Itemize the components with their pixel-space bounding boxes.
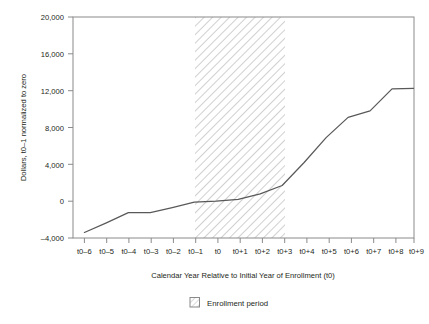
x-tick-label: t0+7 [366,247,381,256]
y-axis-title: Dollars, t0–1 normalized to zero [19,74,28,181]
enrollment-period-band [195,17,285,238]
x-tick-label: t0+1 [233,247,248,256]
x-axis-title: Calendar Year Relative to Initial Year o… [151,271,335,280]
x-tick-label: t0+5 [322,247,337,256]
chart-figure: 20,000 16,000 12,000 8,000 4,000 0 –4,00… [0,0,429,324]
x-tick-label: t0–3 [144,247,159,256]
y-tick-label: 20,000 [41,13,64,22]
y-tick-label: 8,000 [45,124,64,133]
y-axis-ticks [68,17,73,238]
x-tick-label: t0+8 [388,247,403,256]
x-tick-label: t0+4 [299,247,314,256]
chart-legend: Enrollment period [190,298,268,308]
x-tick-label: t0 [215,247,221,256]
legend-item-label: Enrollment period [207,299,268,308]
x-tick-label: t0+2 [255,247,270,256]
x-tick-label: t0–6 [77,247,92,256]
y-tick-label: –4,000 [41,234,64,243]
y-tick-label: 0 [60,197,64,206]
y-tick-label: 16,000 [41,50,64,59]
x-tick-label: t0+6 [344,247,359,256]
x-tick-label: t0–2 [166,247,181,256]
chart-svg: 20,000 16,000 12,000 8,000 4,000 0 –4,00… [0,0,429,324]
x-axis-ticks [84,238,414,243]
y-axis-tick-labels: 20,000 16,000 12,000 8,000 4,000 0 –4,00… [41,13,64,243]
x-tick-label: t0–4 [122,247,137,256]
y-tick-label: 12,000 [41,87,64,96]
x-tick-label: t0+3 [277,247,292,256]
x-tick-label: t0–1 [188,247,203,256]
hatch-square-icon [190,298,200,308]
x-tick-label: t0+9 [409,247,424,256]
x-axis-tick-labels: t0–6 t0–5 t0–4 t0–3 t0–2 t0–1 t0 t0+1 t0… [77,247,424,256]
y-tick-label: 4,000 [45,161,64,170]
x-tick-label: t0–5 [99,247,114,256]
